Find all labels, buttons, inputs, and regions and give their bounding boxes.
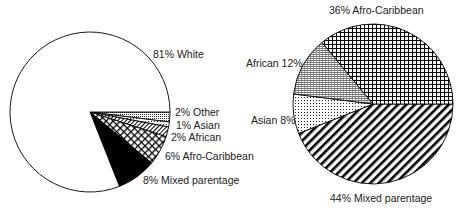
label-afro-caribbean: 36% Afro-Caribbean — [329, 4, 424, 16]
label-mixed-parentage: 44% Mixed parentage — [330, 192, 432, 204]
pie-chart-2 — [293, 24, 453, 184]
label-other: 2% Other — [175, 106, 220, 118]
label-white: 81% White — [153, 48, 204, 60]
label-asian: Asian 8% — [251, 114, 295, 126]
pie-charts: 81% White 2% Other 1% Asian 2% African 6… — [0, 0, 465, 214]
pie-chart-1 — [10, 32, 170, 192]
label-african: 2% African — [171, 131, 221, 143]
label-african: African 12% — [246, 57, 303, 69]
label-asian: 1% Asian — [176, 119, 220, 131]
label-mixed-parentage: 8% Mixed parentage — [143, 174, 239, 186]
label-afro-caribbean: 6% Afro-Caribbean — [165, 150, 254, 162]
